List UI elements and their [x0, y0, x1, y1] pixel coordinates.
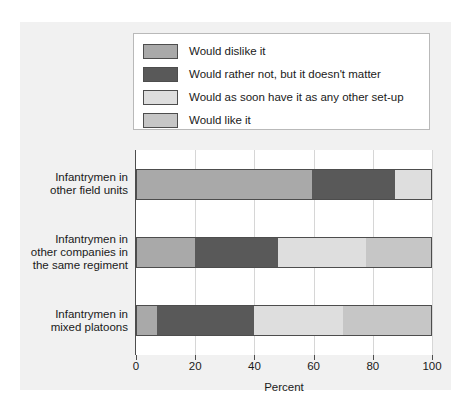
legend-label-would-rather-not: Would rather not, but it doesn't matter	[189, 69, 381, 81]
plot-area: 020406080100 Infantrymen inother field u…	[135, 150, 432, 355]
x-tick-label: 100	[422, 360, 441, 372]
chart-figure: Would dislike it Would rather not, but i…	[20, 22, 451, 390]
bar-segment	[137, 306, 157, 335]
stacked-bar	[136, 237, 432, 268]
legend-swatch-would-as-soon-have-it	[143, 90, 178, 105]
stacked-bar	[136, 305, 432, 336]
category-label-line: Infantrymen in	[8, 233, 128, 246]
bar-segment	[395, 170, 431, 199]
stacked-bar	[136, 169, 432, 200]
legend-item-would-dislike-it: Would dislike it	[143, 41, 429, 62]
category-label: Infantrymen inother field units	[8, 171, 128, 197]
bar-segment	[254, 306, 342, 335]
category-label-line: Infantrymen in	[8, 308, 128, 321]
bar-segment	[278, 238, 366, 267]
legend-item-would-rather-not: Would rather not, but it doesn't matter	[143, 64, 429, 85]
legend-swatch-would-rather-not	[143, 67, 178, 82]
legend-swatch-would-dislike-it	[143, 44, 178, 59]
category-label-line: other companies in	[8, 246, 128, 259]
category-label: Infantrymen inother companies inthe same…	[8, 233, 128, 272]
category-label-line: Infantrymen in	[8, 171, 128, 184]
bar-segment	[343, 306, 431, 335]
bar-segment	[312, 170, 395, 199]
legend-label-would-dislike-it: Would dislike it	[189, 46, 266, 58]
x-tick-label: 0	[133, 360, 139, 372]
bar-segment	[137, 238, 195, 267]
bar-segment	[137, 170, 312, 199]
category-label-line: mixed platoons	[8, 321, 128, 334]
legend-item-would-as-soon-have-it: Would as soon have it as any other set-u…	[143, 87, 429, 108]
x-tick-label: 80	[366, 360, 379, 372]
category-label: Infantrymen inmixed platoons	[8, 308, 128, 334]
chart-legend: Would dislike it Would rather not, but i…	[133, 33, 430, 130]
legend-label-would-like-it: Would like it	[189, 115, 251, 127]
bar-segment	[195, 238, 277, 267]
bar-group: Infantrymen inother companies inthe same…	[136, 237, 432, 268]
gridline	[432, 150, 433, 355]
bar-group: Infantrymen inmixed platoons	[136, 305, 432, 336]
category-label-line: the same regiment	[8, 259, 128, 272]
bar-segment	[366, 238, 431, 267]
x-tick-label: 40	[248, 360, 261, 372]
legend-label-would-as-soon-have-it: Would as soon have it as any other set-u…	[189, 92, 404, 104]
category-label-line: other field units	[8, 184, 128, 197]
legend-item-would-like-it: Would like it	[143, 110, 429, 131]
legend-swatch-would-like-it	[143, 113, 178, 128]
x-axis-label: Percent	[136, 381, 432, 393]
x-tick-label: 60	[307, 360, 320, 372]
bar-group: Infantrymen inother field units	[136, 169, 432, 200]
bar-segment	[157, 306, 254, 335]
x-tick-label: 20	[189, 360, 202, 372]
